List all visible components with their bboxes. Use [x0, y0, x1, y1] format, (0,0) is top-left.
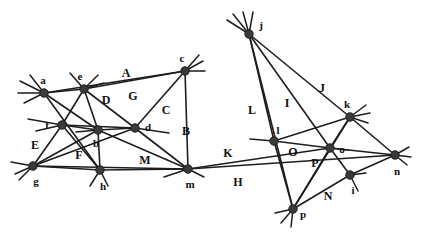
point-label-d: d — [145, 122, 151, 133]
line-label-N: N — [324, 190, 333, 202]
vertex-l — [270, 137, 278, 145]
edge-l-k — [274, 117, 350, 141]
line-label-I: I — [285, 97, 290, 109]
vertex-o — [326, 144, 334, 152]
edge-layer — [33, 34, 395, 209]
edge-k-n — [350, 117, 395, 155]
vertex-j — [245, 30, 253, 38]
edge-m-o — [188, 148, 330, 169]
line-label-M: M — [139, 154, 150, 166]
line-label-F: F — [75, 149, 82, 161]
point-label-e: e — [78, 71, 83, 82]
vertex-k — [346, 113, 354, 121]
line-label-H: H — [233, 176, 242, 188]
point-label-j: j — [259, 20, 263, 31]
vertex-b — [94, 126, 102, 134]
line-label-O: O — [288, 146, 297, 158]
point-label-f: f — [45, 120, 49, 131]
line-label-E: E — [31, 139, 39, 151]
edge-d-c — [135, 71, 185, 128]
edge-l-o — [274, 141, 330, 148]
edge-c-m — [185, 71, 188, 169]
line-label-D: D — [102, 94, 111, 106]
point-label-m: m — [185, 179, 194, 190]
point-label-g: g — [33, 176, 39, 187]
vertex-f — [58, 121, 66, 129]
line-label-G: G — [128, 90, 137, 102]
line-label-P: P — [311, 157, 318, 169]
vertex-i — [346, 171, 354, 179]
vertex-c — [181, 67, 189, 75]
line-label-C: C — [162, 104, 171, 116]
vertex-a — [40, 89, 48, 97]
edge-i-p — [293, 175, 350, 209]
vertex-h — [96, 166, 104, 174]
vertex-m — [184, 165, 192, 173]
point-label-h: h — [100, 181, 106, 192]
diagram-canvas — [0, 0, 421, 236]
point-label-o: o — [339, 144, 345, 155]
point-label-p: p — [300, 209, 306, 220]
vertex-g — [29, 162, 37, 170]
edge-b-g — [33, 130, 98, 166]
line-label-B: B — [182, 125, 190, 137]
edge-a-c — [44, 71, 185, 93]
point-label-n: n — [394, 166, 400, 177]
point-label-b: b — [93, 138, 99, 149]
edge-d-g — [33, 128, 135, 166]
point-label-i: i — [351, 185, 354, 196]
point-label-k: k — [344, 99, 350, 110]
line-label-K: K — [223, 147, 232, 159]
point-label-c: c — [180, 53, 185, 64]
line-label-A: A — [122, 67, 131, 79]
line-label-L: L — [248, 104, 256, 116]
point-label-a: a — [40, 75, 46, 86]
vertex-e — [80, 85, 88, 93]
point-label-l: l — [276, 125, 279, 136]
geometric-diagram: aecfbdghmjklonipABCDEFGHIJKLMNOP — [0, 0, 421, 236]
vertex-p — [289, 205, 297, 213]
vertex-d — [131, 124, 139, 132]
vertex-n — [391, 151, 399, 159]
line-label-J: J — [319, 82, 325, 94]
